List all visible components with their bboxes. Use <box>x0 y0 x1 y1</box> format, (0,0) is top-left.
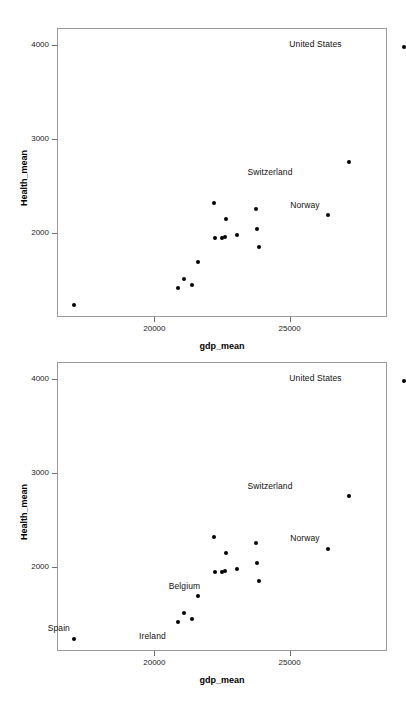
data-point <box>190 283 194 287</box>
data-point <box>235 233 239 237</box>
data-point-norway <box>326 547 330 551</box>
plot-area: United StatesSwitzerlandNorway <box>58 29 386 316</box>
data-point-ireland <box>176 620 180 624</box>
data-point-united-states <box>402 379 406 383</box>
data-point <box>196 594 200 598</box>
x-axis-tick-label: 25000 <box>260 325 320 333</box>
data-point <box>235 567 239 571</box>
y-axis-tick-label: 3000 <box>7 469 49 477</box>
x-axis-tick-label: 25000 <box>260 659 320 667</box>
x-axis-tick <box>154 651 155 656</box>
data-point <box>212 535 216 539</box>
y-axis-tick-label: 2000 <box>7 563 49 571</box>
data-point-switzerland <box>347 494 351 498</box>
point-label-norway: Norway <box>290 534 319 543</box>
point-label-ireland: Ireland <box>139 632 166 641</box>
data-point-spain <box>72 637 76 641</box>
plot-area: United StatesSwitzerlandNorwayBelgiumIre… <box>58 363 386 650</box>
point-label-spain: Spain <box>48 624 70 633</box>
point-label-switzerland: Switzerland <box>247 482 292 491</box>
data-point <box>223 235 227 239</box>
data-point <box>224 217 228 221</box>
y-axis-tick <box>52 567 57 568</box>
data-point <box>213 236 217 240</box>
data-point <box>254 541 258 545</box>
point-label-belgium: Belgium <box>169 582 200 591</box>
y-axis-title: Health_mean <box>20 149 29 205</box>
y-axis-tick <box>52 379 57 380</box>
y-axis-tick <box>52 139 57 140</box>
data-point <box>254 207 258 211</box>
x-axis-tick-label: 20000 <box>124 659 184 667</box>
data-point-united-states <box>402 45 406 49</box>
data-point <box>255 227 259 231</box>
point-label-switzerland: Switzerland <box>247 168 292 177</box>
data-point <box>212 201 216 205</box>
data-point <box>224 551 228 555</box>
x-axis-tick-label: 20000 <box>124 325 184 333</box>
y-axis-tick <box>52 233 57 234</box>
y-axis-title: Health_mean <box>20 483 29 539</box>
x-axis-tick <box>154 317 155 322</box>
y-axis-tick-label: 3000 <box>7 135 49 143</box>
y-axis-tick <box>52 473 57 474</box>
plot-frame: United StatesSwitzerlandNorway <box>57 28 387 317</box>
data-point <box>190 617 194 621</box>
data-point <box>213 570 217 574</box>
data-point-switzerland <box>347 160 351 164</box>
point-label-norway: Norway <box>290 201 319 210</box>
x-axis-title: gdp_mean <box>57 676 387 685</box>
scatter-panel-top: United StatesSwitzerlandNorway2000300040… <box>0 0 406 353</box>
figure-canvas: United StatesSwitzerlandNorway2000300040… <box>0 0 406 706</box>
data-point <box>257 579 261 583</box>
y-axis-tick-label: 4000 <box>7 41 49 49</box>
x-axis-tick <box>290 651 291 656</box>
data-point <box>255 561 259 565</box>
data-point-spain <box>72 303 76 307</box>
data-point <box>176 286 180 290</box>
y-axis-tick <box>52 45 57 46</box>
plot-frame: United StatesSwitzerlandNorwayBelgiumIre… <box>57 362 387 651</box>
x-axis-title: gdp_mean <box>57 342 387 351</box>
data-point <box>257 245 261 249</box>
data-point <box>223 569 227 573</box>
data-point <box>182 611 186 615</box>
y-axis-tick-label: 4000 <box>7 375 49 383</box>
x-axis-tick <box>290 317 291 322</box>
data-point-norway <box>326 213 330 217</box>
point-label-united-states: United States <box>289 374 341 383</box>
data-point <box>196 260 200 264</box>
y-axis-tick-label: 2000 <box>7 229 49 237</box>
point-label-united-states: United States <box>289 40 341 49</box>
data-point <box>182 277 186 281</box>
scatter-panel-bottom: United StatesSwitzerlandNorwayBelgiumIre… <box>0 353 406 706</box>
